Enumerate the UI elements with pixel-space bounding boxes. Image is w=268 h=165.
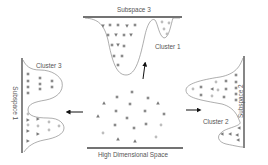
subspace-2-label: Subspace 2	[238, 84, 244, 118]
subspace-1-panel	[22, 58, 64, 153]
projection-arrows	[68, 64, 199, 112]
cluster-2-label: Cluster 2	[203, 119, 229, 125]
subspace-2-density-curve	[186, 58, 243, 147]
subspace-1-label: Subspace 1	[12, 86, 18, 120]
subspace-3-label: Subspace 3	[117, 7, 151, 13]
subspace-2-panel	[186, 56, 244, 148]
cluster-3-label: Cluster 3	[36, 63, 62, 69]
high-dimensional-points	[96, 91, 165, 143]
cluster-1-label: Cluster 1	[155, 44, 181, 50]
diagram-canvas	[0, 0, 268, 165]
subspace-1-points	[27, 73, 61, 143]
high-dimensional-space-panel	[87, 91, 183, 148]
arrow-up-to-subspace-3	[143, 64, 145, 79]
high-dimensional-space-label: High Dimensional Space	[98, 152, 168, 158]
subspace-2-points	[192, 74, 241, 142]
